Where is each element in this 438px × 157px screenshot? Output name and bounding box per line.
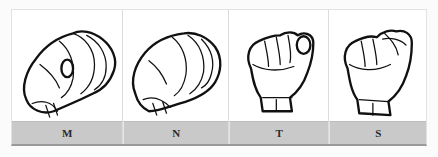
letter-label-t: T	[229, 121, 329, 144]
asl-handshape-s-icon	[329, 10, 426, 121]
panel-t: T	[229, 10, 330, 144]
handshape-strip: M N	[11, 9, 427, 146]
letter-label-s: S	[329, 121, 426, 144]
letter-label-m: M	[12, 121, 122, 144]
panel-m: M	[12, 10, 123, 144]
hand-illustration-m	[12, 10, 122, 121]
letter-label-n: N	[123, 121, 227, 144]
asl-handshape-m-icon	[12, 10, 122, 121]
hand-illustration-t	[229, 10, 329, 121]
panel-s: S	[329, 10, 426, 144]
asl-handshape-n-icon	[123, 10, 227, 121]
asl-handshape-t-icon	[229, 10, 329, 121]
hand-illustration-n	[123, 10, 227, 121]
hand-illustration-s	[329, 10, 426, 121]
panel-n: N	[123, 10, 228, 144]
